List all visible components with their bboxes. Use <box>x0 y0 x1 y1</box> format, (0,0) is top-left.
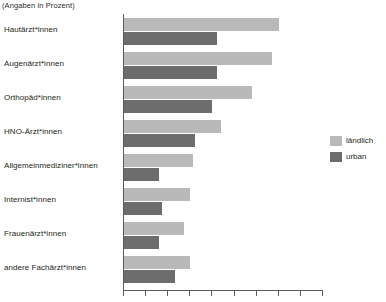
bar-group: Orthopäd*innen <box>0 84 386 118</box>
x-tick <box>167 290 168 296</box>
chart-legend: ländlichurban <box>330 134 386 166</box>
bar-urban <box>124 100 212 113</box>
x-tick <box>322 290 323 296</box>
bar-urban <box>124 236 159 249</box>
bar-rural <box>124 86 252 99</box>
legend-item: ländlich <box>330 134 386 147</box>
x-tick <box>211 290 212 296</box>
bar-rural <box>124 256 190 269</box>
legend-label: urban <box>346 152 366 161</box>
category-label: Orthopäd*innen <box>4 93 119 102</box>
x-axis-ticks <box>123 290 322 296</box>
x-tick <box>145 290 146 296</box>
bar-urban <box>124 134 195 147</box>
bar-group: Allgemeinmediziner*innen <box>0 152 386 186</box>
x-tick <box>256 290 257 296</box>
category-label: Augenärzt*innen <box>4 59 119 68</box>
bar-urban <box>124 168 159 181</box>
bar-rural <box>124 120 221 133</box>
bar-rural <box>124 188 190 201</box>
bar-group: Augenärzt*innen <box>0 50 386 84</box>
bar-urban <box>124 32 217 45</box>
category-label: Frauenärzt*innen <box>4 229 119 238</box>
x-tick <box>189 290 190 296</box>
bar-rural <box>124 154 193 167</box>
legend-label: ländlich <box>346 136 373 145</box>
bar-rural <box>124 18 279 31</box>
bar-group: andere Fachärzt*innen <box>0 254 386 288</box>
x-tick <box>234 290 235 296</box>
category-label: HNO-Ärzt*innen <box>4 127 119 136</box>
chart-units-note: (Angaben in Prozent) <box>2 1 75 10</box>
category-label: andere Fachärzt*innen <box>4 263 119 272</box>
category-label: Internist*innen <box>4 195 119 204</box>
bar-rural <box>124 52 272 65</box>
legend-swatch-rural <box>330 136 342 146</box>
category-label: Allgemeinmediziner*innen <box>4 161 119 170</box>
x-tick <box>278 290 279 296</box>
x-tick <box>123 290 124 296</box>
bar-group: Frauenärzt*innen <box>0 220 386 254</box>
bar-urban <box>124 270 175 283</box>
plot-area: Hautärzt*innenAugenärzt*innenOrthopäd*in… <box>0 14 386 290</box>
bar-chart: (Angaben in Prozent) Hautärzt*innenAugen… <box>0 0 386 302</box>
x-tick <box>300 290 301 296</box>
category-label: Hautärzt*innen <box>4 25 119 34</box>
legend-swatch-urban <box>330 152 342 162</box>
bar-urban <box>124 66 217 79</box>
bar-urban <box>124 202 162 215</box>
legend-item: urban <box>330 150 386 163</box>
bar-rural <box>124 222 184 235</box>
bar-group: Internist*innen <box>0 186 386 220</box>
bar-groups: Hautärzt*innenAugenärzt*innenOrthopäd*in… <box>0 14 386 290</box>
bar-group: Hautärzt*innen <box>0 16 386 50</box>
bar-group: HNO-Ärzt*innen <box>0 118 386 152</box>
